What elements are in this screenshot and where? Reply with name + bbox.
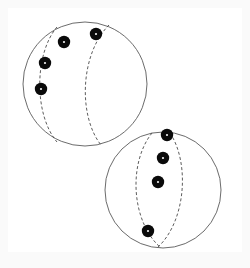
sphere-upper-left: [23, 22, 147, 146]
figure-container: [0, 0, 250, 268]
sphere-outline-lower-right: [105, 132, 221, 248]
marker-dot: [58, 36, 70, 48]
meridian-arc-upper-left-2: [85, 25, 109, 145]
marker-dot: [161, 129, 173, 141]
marker-dot-center: [162, 157, 164, 159]
sphere-diagram: [0, 0, 250, 268]
marker-dot: [39, 57, 51, 69]
marker-dot-center: [157, 181, 159, 183]
marker-dot-center: [147, 230, 149, 232]
meridian-arc-lower-right-2: [157, 133, 182, 248]
marker-dot: [157, 152, 169, 164]
sphere-lower-right: [105, 129, 221, 248]
marker-dot-center: [40, 88, 42, 90]
marker-dot-center: [166, 134, 168, 136]
marker-dot: [152, 176, 164, 188]
marker-group-lower-right: [142, 129, 173, 237]
marker-group-upper-left: [35, 28, 102, 95]
marker-dot-center: [63, 41, 65, 43]
marker-dot-center: [44, 62, 46, 64]
marker-dot-center: [95, 33, 97, 35]
marker-dot: [142, 225, 154, 237]
marker-dot: [35, 83, 47, 95]
marker-dot: [90, 28, 102, 40]
